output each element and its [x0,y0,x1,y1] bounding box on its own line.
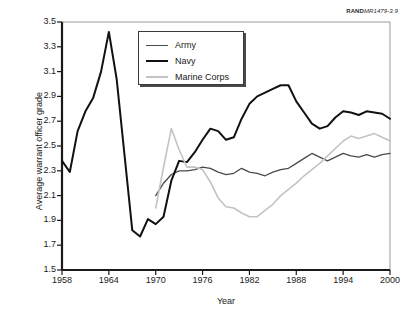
x-tick-label: 1964 [89,275,129,285]
legend-swatch [146,45,168,46]
x-tick-label: 1994 [323,275,363,285]
x-tick-label: 1958 [42,275,82,285]
legend-swatch [146,60,168,62]
chart-legend: ArmyNavyMarine Corps [138,31,244,85]
y-axis-title: Average warrant officer grade [34,26,44,276]
x-tick-label: 1988 [276,275,316,285]
legend-item-navy: Navy [146,53,196,69]
x-axis-title: Year [62,296,390,306]
x-tick-label: 1970 [136,275,176,285]
legend-label: Army [175,40,196,50]
legend-item-army: Army [146,37,196,53]
legend-item-marine-corps: Marine Corps [146,69,229,85]
x-axis-tick-labels: 19581964197019761982198819942000 [0,275,408,291]
x-tick-label: 2000 [370,275,408,285]
x-tick-label: 1976 [183,275,223,285]
series-line-army [156,153,390,195]
x-tick-label: 1982 [229,275,269,285]
legend-swatch [146,76,168,78]
chart-figure: RANDMR1479-3.9 1.51.71.92.12.32.52.72.93… [0,0,408,315]
y-tick-label: 3.5 [32,16,56,26]
legend-label: Navy [175,56,196,66]
legend-label: Marine Corps [175,72,229,82]
